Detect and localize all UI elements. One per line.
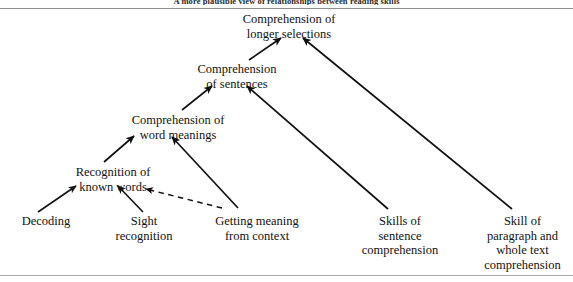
edge-sentences-to-longer-selections bbox=[249, 38, 281, 60]
node-skills-of-sentence-comprehension: Skills of sentence comprehension bbox=[350, 214, 450, 258]
node-recognition-known-words: Recognition of known words bbox=[48, 165, 178, 194]
node-comprehension-word-meanings: Comprehension of word meanings bbox=[104, 113, 252, 142]
edge-sentence-skills-to-sentences bbox=[247, 86, 388, 209]
node-decoding: Decoding bbox=[0, 214, 92, 229]
node-comprehension-longer-selections: Comprehension of longer selections bbox=[213, 12, 365, 41]
node-comprehension-sentences: Comprehension of sentences bbox=[172, 62, 302, 91]
edge-paragraph-skills-to-longer-selections bbox=[303, 38, 512, 209]
node-sight-recognition: Sight recognition bbox=[98, 214, 190, 243]
figure-root: A more plausible view of relationships b… bbox=[0, 0, 573, 282]
node-getting-meaning-from-context: Getting meaning from context bbox=[204, 214, 310, 243]
node-skill-of-paragraph-whole-text-comprehension: Skill of paragraph and whole text compre… bbox=[472, 214, 573, 272]
